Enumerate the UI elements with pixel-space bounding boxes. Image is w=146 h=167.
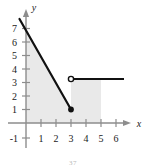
closed-point-marker <box>68 107 74 113</box>
x-tick-label-2: 2 <box>54 133 59 144</box>
figure-caption: 37 <box>0 159 146 167</box>
y-tick-label-1: 1 <box>12 104 17 115</box>
x-axis-label: x <box>136 118 142 129</box>
y-tick-label-7: 7 <box>12 23 17 34</box>
x-tick-label-5: 5 <box>99 133 104 144</box>
shaded-region-rectangle <box>71 79 101 123</box>
x-tick-labels: 1 2 3 4 5 6 <box>39 133 119 144</box>
graph-figure: 7 6 5 4 3 2 1 -1 1 2 3 4 5 6 y x 37 <box>0 0 146 167</box>
open-point-marker <box>68 76 73 81</box>
shaded-regions <box>26 29 101 124</box>
x-tick-label-6: 6 <box>114 133 119 144</box>
y-tick-labels: 7 6 5 4 3 2 1 -1 <box>10 23 18 144</box>
y-axis-label: y <box>31 2 37 13</box>
x-tick-label-4: 4 <box>84 133 89 144</box>
y-tick-label-minus-1: -1 <box>10 133 18 144</box>
y-tick-label-3: 3 <box>12 77 17 88</box>
y-axis-arrowhead <box>23 9 29 17</box>
y-tick-label-2: 2 <box>12 91 17 102</box>
y-tick-label-4: 4 <box>12 64 17 75</box>
x-tick-label-3: 3 <box>69 133 74 144</box>
y-tick-label-5: 5 <box>12 50 17 61</box>
x-tick-label-1: 1 <box>39 133 44 144</box>
x-axis-arrowhead <box>123 120 131 126</box>
y-tick-label-6: 6 <box>12 37 17 48</box>
coordinate-plot: 7 6 5 4 3 2 1 -1 1 2 3 4 5 6 y x <box>0 0 146 167</box>
